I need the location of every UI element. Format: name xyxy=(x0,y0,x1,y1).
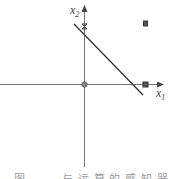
x1-axis-label: x1 xyxy=(155,86,165,102)
cross-marker-x1x2 xyxy=(144,21,148,26)
perceptron-diagram: x2 x1 xyxy=(0,0,169,179)
origin-circle-marker xyxy=(82,82,87,87)
x2-axis-label: x2 xyxy=(69,3,79,19)
figure-caption: 图 与 运 算 的 感 知 器 xyxy=(0,170,169,179)
cross-marker-x1 xyxy=(143,82,148,87)
figure-label: 图 xyxy=(14,170,26,179)
caption-text: 与 运 算 的 感 知 器 xyxy=(62,170,169,179)
